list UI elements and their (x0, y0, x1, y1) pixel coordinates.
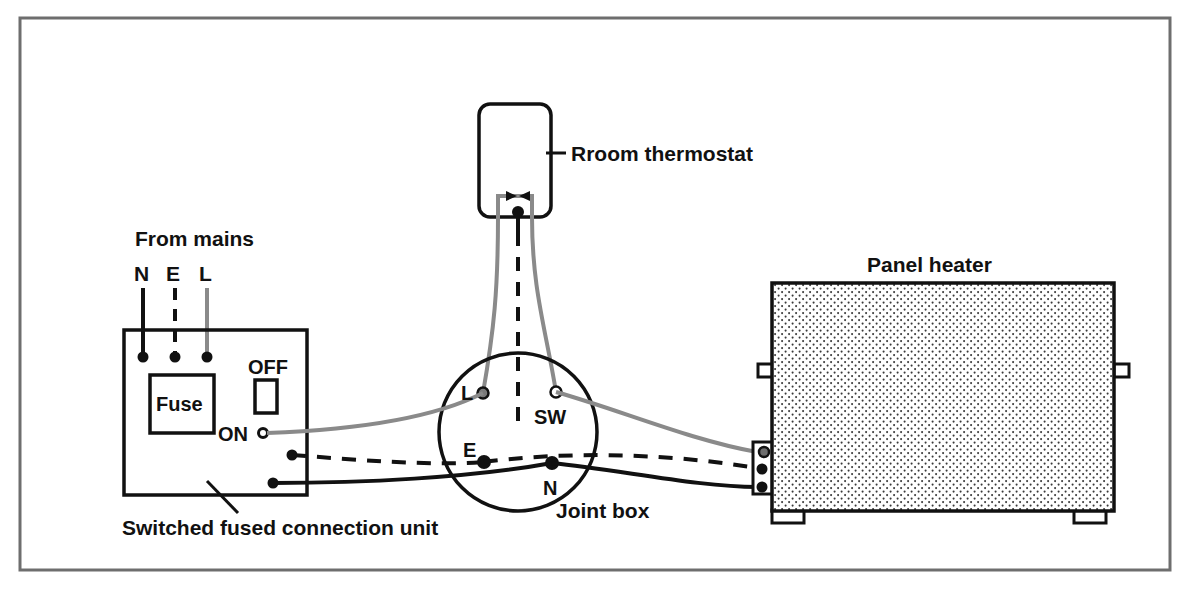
label-fuse: Fuse (156, 393, 203, 415)
wiring-diagram: From mains N E L Fuse OFF ON Switched fu… (0, 0, 1190, 611)
switch-on-contact (259, 429, 268, 438)
label-switch-on: ON (218, 423, 248, 445)
heater-body (772, 283, 1114, 511)
mains-earth-terminal-dot (170, 352, 181, 363)
heater-live-terminal (759, 447, 769, 457)
label-connection-unit: Switched fused connection unit (122, 516, 438, 539)
mains-neutral-terminal-dot (138, 352, 149, 363)
label-joint-box: Joint box (556, 499, 650, 522)
label-mains-e: E (166, 262, 180, 285)
label-mains-n: N (134, 262, 149, 285)
panel-heater (758, 283, 1129, 523)
heater-neutral-terminal (757, 482, 768, 493)
heater-earth-terminal (757, 464, 768, 475)
label-terminal-sw: SW (534, 406, 566, 428)
wiring-diagram-canvas: From mains N E L Fuse OFF ON Switched fu… (0, 0, 1190, 611)
label-from-mains: From mains (135, 227, 254, 250)
mains-live-terminal-dot (202, 352, 213, 363)
label-switch-off: OFF (248, 356, 288, 378)
label-panel-heater: Panel heater (867, 253, 992, 276)
label-terminal-e: E (463, 439, 476, 461)
heater-right-mounting-tab (1114, 364, 1129, 377)
label-terminal-n: N (543, 477, 557, 499)
label-room-thermostat: Rroom thermostat (571, 142, 753, 165)
label-mains-l: L (199, 262, 212, 285)
label-terminal-l: L (461, 382, 473, 404)
